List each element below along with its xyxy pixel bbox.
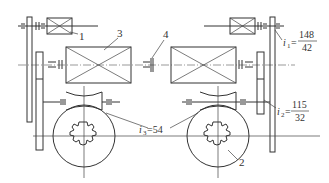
svg-text:148: 148 (299, 29, 314, 40)
right-tall-gear (270, 17, 275, 152)
label-2: 2 (239, 156, 245, 168)
left-top-shaft (18, 18, 98, 34)
right-top-shaft (204, 18, 284, 34)
svg-text:=: = (285, 106, 291, 117)
svg-text:=54: =54 (147, 124, 163, 135)
svg-text:i: i (277, 106, 280, 117)
left-tall-gear (27, 17, 32, 122)
svg-text:42: 42 (302, 42, 312, 53)
svg-text:115: 115 (292, 99, 307, 110)
label-3: 3 (117, 27, 123, 39)
right-second-gear (257, 52, 264, 114)
label-4: 4 (163, 28, 169, 40)
svg-text:i: i (139, 124, 142, 135)
left-second-gear (36, 52, 43, 150)
transmission-diagram: 1 3 4 2 i 1 = 148 42 i 2 = 115 32 i 3 =5… (0, 0, 329, 183)
ratio-i2: i 2 = 115 32 (277, 99, 309, 123)
svg-text:=: = (291, 37, 297, 48)
svg-text:i: i (283, 37, 286, 48)
svg-text:32: 32 (295, 112, 305, 123)
label-1: 1 (79, 30, 85, 42)
ratio-i1: i 1 = 148 42 (283, 29, 317, 53)
